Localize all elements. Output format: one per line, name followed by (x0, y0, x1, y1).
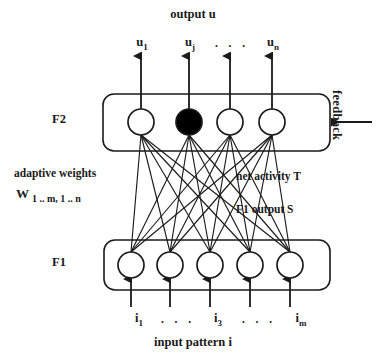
weight-matrix-sub: 1 .. m, 1 .. n (32, 193, 81, 204)
connection-f2-0-f1-3 (141, 135, 250, 252)
input-arrows (131, 279, 290, 307)
weight-matrix-base: W (16, 186, 29, 201)
f2-nodes (128, 109, 285, 135)
f1-output-label: F1 output S (236, 204, 294, 216)
layer-label-f1: F1 (52, 256, 66, 269)
connection-f2-3-f1-3 (250, 135, 272, 252)
adaptive-weights-label: adaptive weights (14, 168, 96, 180)
input-label-im: im (288, 312, 314, 328)
output-label-uj-sub: j (192, 42, 195, 52)
output-label-u1: u1 (127, 36, 157, 52)
f1-nodes (118, 252, 303, 278)
f2-node-1-active (176, 109, 202, 135)
input-ellipsis-left: . . . (148, 314, 208, 326)
f1-node-4 (277, 252, 303, 278)
f2-node-0 (128, 109, 154, 135)
input-label-i1-sub: 1 (138, 318, 143, 328)
f1-node-1 (157, 252, 183, 278)
output-label-un: un (258, 36, 288, 52)
net-activity-label: net activity T (236, 171, 301, 183)
diagram-canvas (0, 0, 386, 362)
output-arrows (141, 56, 272, 109)
output-label-un-sub: n (274, 42, 279, 52)
f2-node-2 (217, 109, 243, 135)
f1-node-2 (197, 252, 223, 278)
weight-matrix-label: W1 .. m, 1 .. n (16, 187, 81, 204)
connection-f2-3-f1-0 (131, 135, 272, 252)
connection-f2-2-f1-2 (210, 135, 230, 252)
f1-node-0 (118, 252, 144, 278)
output-label-uj-base: u (185, 35, 192, 49)
f2-node-3 (259, 109, 285, 135)
input-label-i3-sub: 3 (217, 318, 222, 328)
page-title: output u (0, 8, 386, 21)
neural-network-diagram: output u u1 uj . . . un F2 F1 adaptive w… (0, 0, 386, 362)
diagram-caption: input pattern i (0, 336, 386, 349)
output-ellipsis: . . . (206, 38, 258, 50)
input-label-im-sub: m (299, 318, 307, 328)
output-label-u1-sub: 1 (143, 42, 148, 52)
layer-label-f2: F2 (52, 113, 66, 126)
f1-node-3 (237, 252, 263, 278)
output-label-uj: uj (175, 36, 205, 52)
feedback-label: feedback (331, 90, 344, 140)
output-label-un-base: u (267, 35, 274, 49)
input-ellipsis-right: . . . (228, 314, 290, 326)
adaptive-weight-connections (131, 135, 290, 252)
